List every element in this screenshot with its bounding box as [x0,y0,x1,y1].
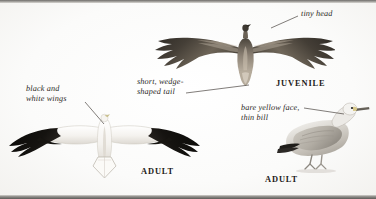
field-guide-plate: tiny head black and white wings short, w… [0,0,376,199]
annotation-black-and-white-wings: black and white wings [26,84,67,103]
caption-adult-perched: ADULT [265,175,298,184]
annotation-bare-yellow-face-thin-bill: bare yellow face, thin bill [241,103,299,122]
annotation-tiny-head: tiny head [301,9,333,19]
caption-adult-flight: ADULT [141,167,174,176]
scan-edge-top [0,0,376,3]
caption-juvenile: JUVENILE [276,79,326,88]
annotation-short-wedge-shaped-tail: short, wedge- shaped tail [137,77,184,96]
scan-edge-bottom [0,195,376,199]
